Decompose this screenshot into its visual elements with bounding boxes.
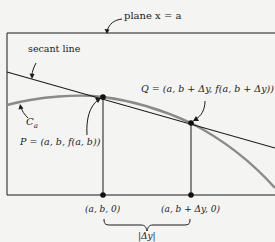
curve-arrowhead — [19, 104, 24, 110]
delta-label: |Δy| — [138, 232, 156, 241]
point-p-arrow — [87, 100, 98, 135]
secant-label: secant line — [28, 44, 80, 54]
base-q-label: (a, b + Δy, 0) — [161, 205, 220, 214]
point-q-label: Q = (a, b + Δy, f(a, b + Δy)) — [141, 84, 274, 94]
base-q-dot — [188, 192, 194, 198]
point-q-arrowhead — [193, 116, 199, 121]
plane-outline — [7, 33, 275, 195]
base-p-dot — [100, 192, 106, 198]
plane-arrow — [107, 19, 122, 31]
secant-line-diagram: plane x = a secant line Ca P = (a, b, f(… — [0, 0, 275, 242]
curve-label-sub: a — [34, 122, 38, 130]
plane-label: plane x = a — [124, 11, 181, 21]
point-q-dot — [188, 120, 194, 126]
point-p-label: P = (a, b, f(a, b)) — [20, 137, 100, 147]
point-p-dot — [100, 94, 106, 100]
curve-label-main: C — [26, 116, 34, 127]
base-p-label: (a, b, 0) — [85, 205, 120, 214]
point-q-arrow — [196, 101, 205, 119]
delta-brace — [104, 219, 190, 231]
curve-label: Ca — [26, 117, 38, 130]
diagram-graphics — [0, 0, 275, 242]
